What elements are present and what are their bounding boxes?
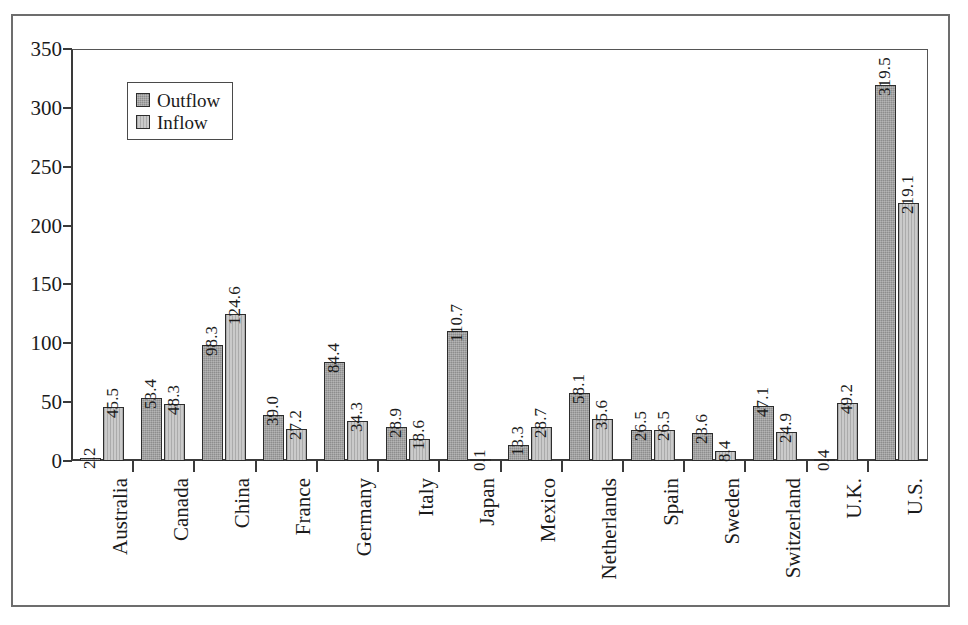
category-label: Australia — [110, 478, 131, 555]
bar-value-label: 26.5 — [632, 411, 649, 441]
legend-label-inflow: Inflow — [157, 113, 208, 132]
legend-item-inflow[interactable]: Inflow — [136, 111, 220, 133]
x-tick-mark — [500, 461, 502, 472]
category-label: France — [293, 478, 314, 535]
x-tick-mark — [193, 461, 195, 472]
category-label: Italy — [416, 478, 437, 516]
bar-value-label: 48.3 — [165, 385, 182, 415]
bar-us-inflow — [898, 203, 919, 461]
bar-value-label: 8.4 — [716, 441, 733, 463]
category-label: Canada — [171, 478, 192, 541]
x-tick-mark — [377, 461, 379, 472]
bar-value-label: 35.6 — [593, 400, 610, 430]
bar-value-label: 39.0 — [264, 396, 281, 426]
bar-value-label: 0.1 — [471, 450, 488, 472]
y-axis: 050100150200250300350 — [0, 0, 62, 625]
y-tick-label: 300 — [31, 97, 63, 118]
bar-value-label: 47.1 — [754, 386, 771, 416]
bar-value-label: 13.3 — [509, 426, 526, 456]
y-tick-mark — [63, 107, 72, 109]
x-tick-mark — [806, 461, 808, 472]
bar-value-label: 219.1 — [899, 175, 916, 214]
bar-value-label: 84.4 — [325, 342, 342, 372]
bar-us-outflow — [875, 85, 896, 461]
chart-figure: 050100150200250300350 2.245.553.448.398.… — [0, 0, 968, 625]
category-label: Spain — [661, 478, 682, 526]
x-tick-mark — [622, 461, 624, 472]
category-label: Japan — [477, 478, 498, 526]
x-tick-mark — [132, 461, 134, 472]
category-label: China — [232, 478, 253, 528]
bar-value-label: 319.5 — [876, 57, 893, 96]
bar-value-label: 58.1 — [570, 373, 587, 403]
y-tick-mark — [63, 342, 72, 344]
x-tick-mark — [744, 461, 746, 472]
x-tick-mark — [316, 461, 318, 472]
bar-value-label: 124.6 — [226, 287, 243, 326]
bar-value-label: 23.6 — [693, 414, 710, 444]
y-tick-mark — [63, 48, 72, 50]
category-label: U.S. — [905, 478, 926, 515]
bar-china-outflow — [202, 345, 223, 461]
y-tick-label: 0 — [52, 451, 63, 472]
bar-value-label: 2.2 — [81, 448, 98, 470]
bar-value-label: 110.7 — [448, 304, 465, 342]
inflow-swatch-icon — [136, 115, 150, 129]
x-tick-mark — [255, 461, 257, 472]
bar-value-label: 24.9 — [777, 413, 794, 443]
bar-value-label: 34.3 — [348, 401, 365, 431]
y-tick-mark — [63, 225, 72, 227]
bar-value-label: 98.3 — [203, 326, 220, 356]
bar-value-label: 53.4 — [142, 379, 159, 409]
chart-legend: Outflow Inflow — [127, 82, 233, 140]
y-tick-label: 350 — [31, 39, 63, 60]
y-tick-label: 250 — [31, 156, 63, 177]
y-tick-mark — [63, 283, 72, 285]
bar-value-label: 28.7 — [532, 408, 549, 438]
category-label: U.K. — [844, 478, 865, 519]
y-tick-mark — [63, 401, 72, 403]
category-label: Germany — [354, 478, 375, 556]
bar-value-label: 49.2 — [838, 384, 855, 414]
outflow-swatch-icon — [136, 93, 150, 107]
bar-japan-outflow — [447, 331, 468, 461]
bar-value-label: 28.9 — [387, 408, 404, 438]
y-tick-mark — [63, 166, 72, 168]
bar-china-inflow — [225, 314, 246, 461]
category-label: Switzerland — [783, 478, 804, 578]
x-tick-mark — [561, 461, 563, 472]
bar-value-label: 18.6 — [410, 420, 427, 450]
y-tick-label: 50 — [41, 392, 62, 413]
category-label: Sweden — [722, 478, 743, 545]
bar-value-label: 45.5 — [104, 388, 121, 418]
bar-value-label: 0.4 — [815, 450, 832, 472]
legend-label-outflow: Outflow — [157, 91, 220, 110]
category-label: Netherlands — [599, 478, 620, 579]
legend-item-outflow[interactable]: Outflow — [136, 89, 220, 111]
y-tick-mark — [63, 460, 72, 462]
category-label: Mexico — [538, 478, 559, 542]
x-tick-mark — [438, 461, 440, 472]
y-tick-label: 200 — [31, 215, 63, 236]
bar-value-label: 27.2 — [287, 410, 304, 440]
y-tick-label: 150 — [31, 274, 63, 295]
bar-germany-outflow — [324, 362, 345, 461]
y-tick-label: 100 — [31, 333, 63, 354]
x-tick-mark — [683, 461, 685, 472]
x-tick-mark — [867, 461, 869, 472]
bar-value-label: 26.5 — [655, 411, 672, 441]
